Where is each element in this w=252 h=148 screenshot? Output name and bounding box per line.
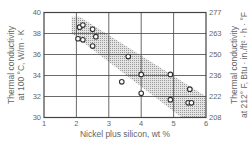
x-tick-label: 5 [172,119,176,128]
data-point [119,80,124,85]
x-tick-label: 4 [139,119,143,128]
data-point [90,27,95,32]
x-tick-label: 2 [74,119,78,128]
data-point [168,97,173,102]
x-tick-label: 3 [107,119,111,128]
y-tick-label: 34 [33,71,41,80]
data-point [168,72,173,77]
y-axis-ticks: 303234363840 [33,8,41,122]
y-axis-label-line2: at 100 °C, W/m · K [16,29,26,100]
x-tick-label: 1 [42,119,46,128]
x-tick-label: 6 [204,119,208,128]
x-axis-ticks: 123456 [42,119,208,128]
y-tick-label: 36 [33,50,41,59]
data-point [189,101,194,106]
y2-tick-label: 222 [209,92,222,101]
chart: 123456 303234363840 208222236250263277 N… [0,0,252,148]
y2-tick-label: 236 [209,71,222,80]
x-axis-label: Nickel plus silicon, wt % [80,129,171,139]
y-tick-label: 30 [33,113,41,122]
data-point [76,36,81,41]
y2-tick-label: 277 [209,8,222,17]
y-tick-label: 40 [33,8,41,17]
y2-tick-label: 263 [209,29,222,38]
data-point [126,54,131,59]
y2-axis-label-line2: at 212° F, Btu · in./ft² · h · °F [239,12,249,118]
data-point [81,23,86,28]
y2-tick-label: 250 [209,50,222,59]
data-point [81,38,86,43]
data-point [139,91,144,96]
data-point [90,44,95,49]
y2-axis-label-line1: Thermal conductivity [229,25,239,104]
y2-axis-ticks: 208222236250263277 [209,8,222,122]
y-tick-label: 32 [33,92,41,101]
data-point [139,72,144,77]
data-point [94,34,99,39]
y2-tick-label: 208 [209,113,222,122]
y-tick-label: 38 [33,29,41,38]
data-point [188,87,193,92]
y-axis-label-line1: Thermal conductivity [6,25,16,104]
